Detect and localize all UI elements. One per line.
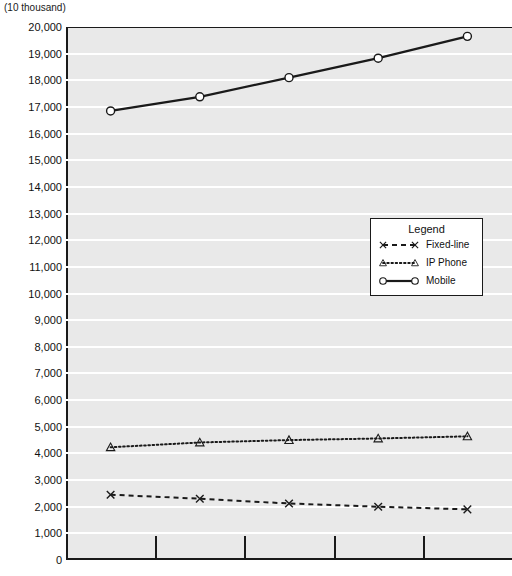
- y-axis-tick-labels: 20,00019,00018,00017,00016,00015,00014,0…: [0, 27, 62, 560]
- circle-marker-icon: [374, 54, 382, 62]
- legend-item-label: Mobile: [426, 275, 455, 287]
- series-line: [111, 495, 468, 510]
- legend-item-ip-phone[interactable]: IP Phone: [371, 254, 482, 272]
- series-ip-phone: [106, 432, 471, 450]
- legend-item-fixed-line[interactable]: Fixed-line: [371, 236, 482, 254]
- y-tick-label: 3,000: [34, 475, 62, 486]
- legend-sample: [376, 274, 422, 288]
- legend-box: Legend Fixed-lineIP PhoneMobile: [370, 218, 483, 296]
- y-tick-label: 2,000: [34, 501, 62, 512]
- y-tick-label: 20,000: [28, 22, 62, 33]
- y-axis-unit-label: (10 thousand): [4, 2, 66, 14]
- legend-sample: [376, 256, 422, 270]
- legend-title: Legend: [371, 223, 482, 236]
- y-tick-label: 9,000: [34, 315, 62, 326]
- legend-item-label: Fixed-line: [426, 239, 469, 251]
- y-tick-label: 19,000: [28, 48, 62, 59]
- legend-sample: [376, 238, 422, 252]
- y-tick-label: 1,000: [34, 528, 62, 539]
- circle-marker-icon: [380, 278, 387, 285]
- series-line: [111, 436, 468, 447]
- y-tick-label: 4,000: [34, 448, 62, 459]
- y-tick-label: 5,000: [34, 421, 62, 432]
- series-fixed-line: [107, 491, 471, 513]
- y-tick-label: 11,000: [29, 261, 62, 272]
- y-tick-label: 6,000: [34, 395, 62, 406]
- legend-item-mobile[interactable]: Mobile: [371, 272, 482, 290]
- circle-marker-icon: [412, 278, 419, 285]
- y-tick-label: 13,000: [28, 208, 62, 219]
- y-tick-label: 15,000: [28, 155, 62, 166]
- series-mobile: [107, 32, 472, 115]
- circle-marker-icon: [107, 107, 115, 115]
- circle-marker-icon: [285, 74, 293, 82]
- legend-item-label: IP Phone: [426, 257, 467, 269]
- y-tick-label: 8,000: [34, 341, 62, 352]
- y-tick-label: 16,000: [28, 128, 62, 139]
- y-tick-label: 0: [56, 555, 62, 566]
- y-tick-label: 7,000: [34, 368, 62, 379]
- y-tick-label: 12,000: [28, 235, 62, 246]
- y-tick-label: 17,000: [28, 101, 62, 112]
- circle-marker-icon: [196, 93, 204, 101]
- y-tick-label: 14,000: [28, 181, 62, 192]
- y-tick-label: 18,000: [28, 75, 62, 86]
- y-tick-label: 10,000: [28, 288, 62, 299]
- legend-items: Fixed-lineIP PhoneMobile: [371, 236, 482, 290]
- circle-marker-icon: [463, 32, 471, 40]
